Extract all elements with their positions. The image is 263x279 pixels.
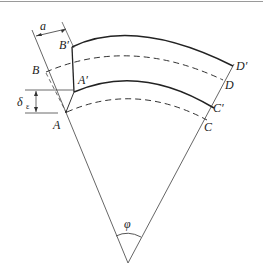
delta-arrowhead-bottom: [34, 107, 38, 112]
label-d: D: [224, 78, 234, 92]
aprime-a-edge: [66, 92, 74, 112]
right-radial-line: [128, 64, 234, 263]
outer-solid-arc: [72, 36, 233, 66]
a-arrowhead-left: [36, 33, 42, 36]
label-a-point: A: [52, 118, 61, 132]
label-phi: φ: [124, 217, 131, 231]
label-c-prime: C′: [213, 101, 224, 115]
delta-arrowhead-top: [34, 91, 38, 96]
label-c: C: [204, 120, 213, 134]
bprime-aprime-edge: [72, 47, 74, 92]
label-delta-subscript: ε: [26, 102, 30, 111]
point-a-dot: [65, 111, 67, 113]
label-a-prime: A′: [77, 73, 88, 87]
phi-angle-arc: [116, 233, 141, 237]
label-b-prime: B′: [59, 38, 69, 52]
label-d-prime: D′: [235, 59, 248, 73]
inner-dashed-arc: [67, 99, 207, 120]
label-a: a: [40, 19, 46, 33]
label-b: B: [32, 63, 40, 77]
inner-solid-arc: [74, 81, 214, 108]
sector-diagram: a B′ B A′ A δ ε D′ D C′ C φ: [0, 0, 263, 279]
label-delta: δ: [17, 95, 23, 109]
offset-dashed-line: [46, 73, 66, 112]
left-radial-line: [32, 30, 128, 263]
